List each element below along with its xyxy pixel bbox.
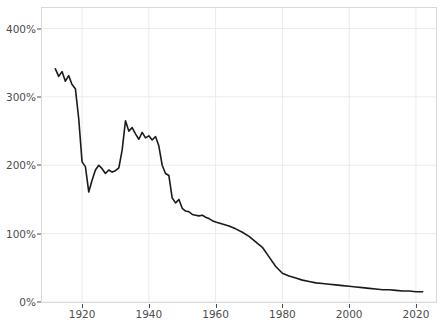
y-axis-tick-label: 200% <box>0 160 36 171</box>
x-axis-tick-mark <box>349 304 350 308</box>
y-axis-tick-label: 300% <box>0 92 36 103</box>
data-line <box>55 69 422 292</box>
x-axis-tick-mark <box>416 304 417 308</box>
gridlines <box>42 8 436 302</box>
y-axis-tick-label: 100% <box>0 228 36 239</box>
x-axis-tick-mark <box>216 304 217 308</box>
x-axis-tick-mark <box>82 304 83 308</box>
x-axis-tick-label: 2000 <box>336 309 363 320</box>
x-axis-tick-label: 1980 <box>269 309 296 320</box>
x-axis-tick-mark <box>282 304 283 308</box>
x-axis-tick-label: 2020 <box>403 309 430 320</box>
plot-panel <box>41 7 437 303</box>
y-axis-tick-label: 400% <box>0 23 36 34</box>
x-axis-tick-label: 1920 <box>69 309 96 320</box>
x-axis-tick-label: 1960 <box>202 309 229 320</box>
x-axis-tick-mark <box>149 304 150 308</box>
chart-container: 400%300%200%100%0% 192019401960198020002… <box>0 0 445 330</box>
y-axis-tick-label: 0% <box>0 297 36 308</box>
x-axis-tick-label: 1940 <box>135 309 162 320</box>
plot-svg <box>42 8 436 302</box>
data-series-group <box>55 69 422 292</box>
